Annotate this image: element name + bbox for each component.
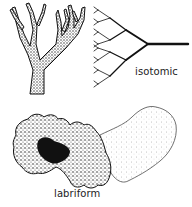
isotomic-illustration: isotomic bbox=[90, 0, 192, 100]
isotomic-label: isotomic bbox=[135, 66, 178, 77]
labriform-illustration: labriform bbox=[0, 95, 192, 207]
labriform-label: labriform bbox=[54, 188, 100, 199]
isotomic-branching-drawing bbox=[90, 0, 192, 100]
branching-colony-drawing bbox=[0, 0, 96, 100]
branching-colony-illustration bbox=[0, 0, 96, 100]
